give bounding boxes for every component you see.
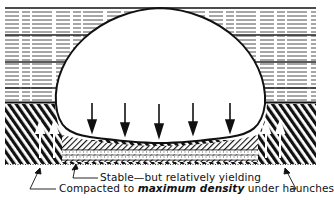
- haunches-label-suffix: under haunches: [244, 182, 334, 194]
- haunches-label: Compacted to maximum density under haunc…: [59, 182, 334, 194]
- haunches-label-prefix: Compacted to: [59, 182, 138, 194]
- haunches-label-emphasis: maximum density: [138, 182, 245, 194]
